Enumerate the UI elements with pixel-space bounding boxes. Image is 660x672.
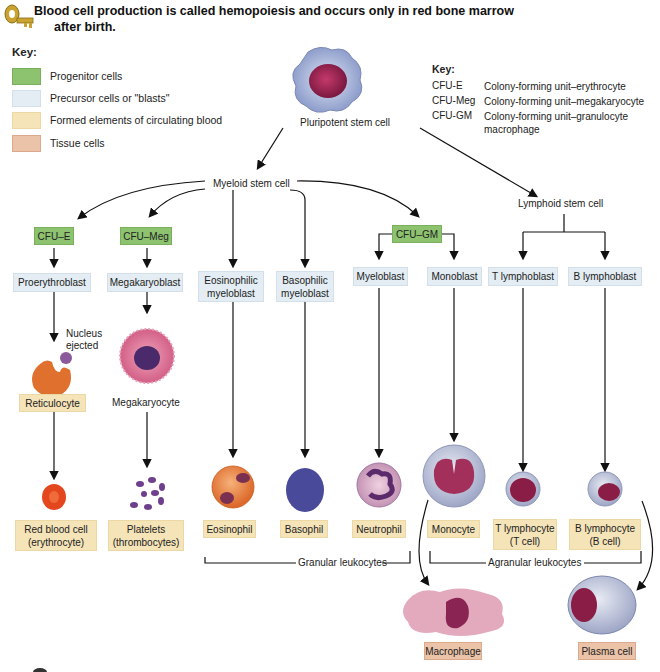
t-lymphoblast-box: T lymphoblast	[488, 267, 558, 286]
pluripotent-cell-image	[293, 47, 362, 112]
megakaryocyte-label: Megakaryocyte	[112, 397, 180, 409]
proerythroblast-box: Proerythroblast	[13, 273, 91, 292]
plasma-cell-box: Plasma cell	[578, 642, 636, 660]
myeloid-stem-cell-label: Myeloid stem cell	[213, 178, 290, 190]
b-lymphoblast-box: B lymphoblast	[568, 267, 642, 286]
lymphoid-stem-cell-label: Lymphoid stem cell	[518, 198, 603, 210]
cfu-meg-box: CFU–Meg	[120, 227, 172, 245]
neutrophil-box: Neutrophil	[352, 520, 406, 538]
cfu-e-box: CFU–E	[34, 227, 74, 245]
reticulocyte-box: Reticulocyte	[19, 394, 86, 412]
eosinophilic-myeloblast-box: Eosinophilic myeloblast	[198, 271, 264, 302]
myeloblast-box: Myeloblast	[353, 267, 408, 286]
t-lymphocyte-box: T lymphocyte (T cell)	[493, 519, 557, 550]
nucleus-ejected-label: Nucleus ejected	[66, 328, 102, 352]
red-blood-cell-box: Red blood cell (erythrocyte)	[15, 520, 97, 551]
platelets-box: Platelets (thrombocytes)	[108, 520, 184, 551]
monoblast-box: Monoblast	[427, 267, 482, 286]
granular-leukocytes-label: Granular leukocytes	[298, 557, 387, 569]
megakaryoblast-box: Megakaryoblast	[107, 273, 183, 292]
agranular-leukocytes-label: Agranular leukocytes	[488, 557, 581, 569]
basophil-box: Basophil	[280, 520, 328, 538]
pluripotent-stem-cell-label: Pluripotent stem cell	[300, 117, 390, 129]
cfu-gm-box: CFU–GM	[392, 225, 442, 243]
eosinophil-box: Eosinophil	[203, 520, 256, 538]
macrophage-box: Macrophage	[424, 642, 482, 660]
basophilic-myeloblast-box: Basophilic myeloblast	[276, 271, 334, 302]
monocyte-box: Monocyte	[427, 520, 480, 538]
b-lymphocyte-box: B lymphocyte (B cell)	[569, 519, 641, 550]
